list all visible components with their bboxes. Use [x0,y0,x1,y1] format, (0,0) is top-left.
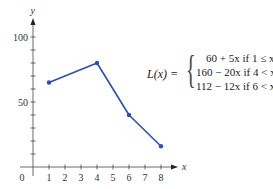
x-axis-arrow-icon [171,165,178,170]
y-axis-arrow-icon [31,18,36,25]
function-name: L(x) = [147,67,178,82]
plot-series [47,61,163,149]
data-point [95,61,99,65]
series-line [49,63,161,146]
data-point [159,144,163,148]
data-point [127,113,131,117]
x-tick-label: 1 [47,172,52,183]
data-point [47,80,51,84]
y-tick-label: 100 [13,32,28,43]
case-3: 112 − 12x if 6 < x ≤ 8 [196,79,273,93]
x-tick-label: 5 [111,172,116,183]
y-axis-label: y [30,5,36,16]
x-tick-label: 6 [127,172,132,183]
case-2: 160 − 20x if 4 < x ≤ 6 [196,65,273,79]
x-tick-label: 8 [159,172,164,183]
axis-labels: 12345678050100xy [13,5,187,183]
piecewise-brace: { [186,48,196,92]
x-tick-label: 4 [95,172,100,183]
line-chart: 12345678050100xy [0,0,273,189]
y-tick-label: 50 [18,97,28,108]
piecewise-cases: 60 + 5x if 1 ≤ x ≤ 4 160 − 20x if 4 < x … [196,51,273,93]
x-tick-label: 3 [79,172,84,183]
x-axis-label: x [181,161,187,172]
case-1: 60 + 5x if 1 ≤ x ≤ 4 [196,51,273,65]
origin-label: 0 [20,172,25,183]
axes [20,18,178,176]
x-tick-label: 7 [143,172,148,183]
x-tick-label: 2 [63,172,68,183]
